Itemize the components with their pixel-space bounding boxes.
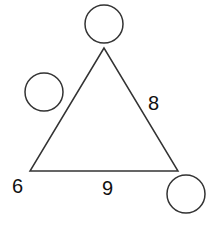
top-vertex-circle[interactable]	[85, 5, 123, 43]
bottom-right-vertex-circle[interactable]	[167, 175, 205, 213]
bottom-left-vertex-label: 6	[12, 175, 23, 197]
triangle-puzzle-diagram: 8 6 9	[0, 0, 207, 225]
left-edge-circle[interactable]	[25, 73, 63, 111]
bottom-edge-label: 9	[102, 177, 113, 199]
right-edge-label: 8	[148, 92, 159, 114]
